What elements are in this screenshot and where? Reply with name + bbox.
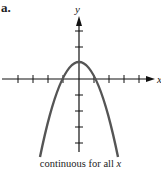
caption: continuous for all x	[0, 158, 161, 169]
x-axis-label: x	[156, 73, 161, 85]
caption-variable: x	[117, 158, 122, 169]
x-axis-arrow-icon	[146, 76, 155, 82]
y-axis-arrow-icon	[76, 16, 82, 26]
y-axis-label: y	[74, 3, 80, 15]
parabola-graph: y x	[0, 0, 161, 176]
caption-text: continuous for all	[40, 158, 117, 169]
